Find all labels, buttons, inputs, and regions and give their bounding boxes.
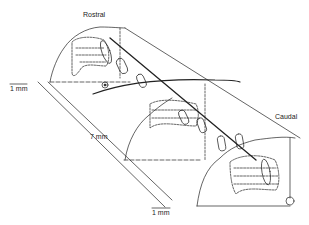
caudal-label: Caudal — [275, 113, 297, 120]
middle-nucleus — [150, 100, 198, 128]
bottom-edge-outer-line — [38, 82, 165, 207]
rostral-section-outline — [50, 27, 125, 82]
scale-bottom-label: 1 mm — [152, 209, 170, 216]
diagram-canvas: Rostral Caudal 1 mm 7 mm 1 mm — [0, 0, 309, 225]
top-edge-line — [125, 28, 300, 138]
middle-section-outline — [125, 98, 172, 160]
rostral-label: Rostral — [83, 11, 105, 18]
caudal-section-outline — [197, 137, 295, 206]
bottom-edge-inner-line — [48, 82, 172, 200]
scale-length-label: 7 mm — [90, 133, 108, 140]
caudal-nucleus — [230, 156, 279, 194]
track-line — [110, 38, 256, 160]
block-diagram-drawing — [0, 0, 309, 225]
scale-left-label: 1 mm — [10, 85, 28, 92]
